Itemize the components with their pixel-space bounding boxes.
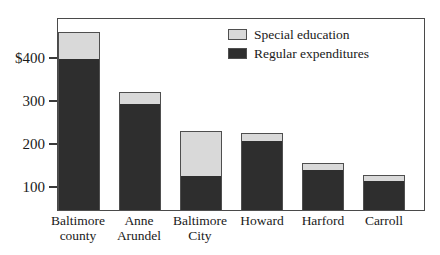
bar-stack[interactable]: [363, 175, 405, 211]
x-label-baltimore-county: Baltimore county: [43, 213, 113, 243]
x-label-howard: Howard: [227, 213, 297, 228]
x-label-line1: Anne: [124, 213, 153, 228]
legend-label: Regular expenditures: [254, 46, 369, 61]
bar-segment-special-education[interactable]: [242, 134, 282, 141]
x-label-harford: Harford: [288, 213, 358, 228]
bar-stack[interactable]: [58, 32, 100, 211]
bar-segment-regular-expenditures[interactable]: [242, 141, 282, 210]
x-label-line1: Baltimore: [51, 213, 105, 228]
legend-swatch-icon: [228, 48, 247, 59]
legend-item-special-education[interactable]: Special education: [228, 26, 408, 43]
y-tick-mark-200: [49, 143, 57, 145]
stacked-bar-chart: $400 300 200 100: [0, 0, 440, 255]
y-tick-mark-400: [49, 57, 57, 59]
y-tick-label-100: 100: [23, 177, 46, 197]
x-label-baltimore-city: Baltimore City: [165, 213, 235, 243]
legend: Special education Regular expenditures: [228, 26, 408, 64]
y-tick-label-300: 300: [23, 91, 46, 111]
bar-segment-regular-expenditures[interactable]: [120, 104, 160, 210]
y-tick-label-400: $400: [15, 48, 45, 68]
x-label-line2: county: [43, 228, 113, 243]
x-label-line2: City: [165, 228, 235, 243]
x-label-line1: Baltimore: [173, 213, 227, 228]
y-tick-mark-100: [49, 186, 57, 188]
x-label-line1: Harford: [302, 213, 345, 228]
y-tick-mark-300: [49, 100, 57, 102]
bar-group-baltimore-city: [180, 18, 222, 211]
bar-segment-regular-expenditures[interactable]: [181, 176, 221, 210]
legend-item-regular-expenditures[interactable]: Regular expenditures: [228, 45, 408, 62]
legend-label: Special education: [254, 27, 350, 42]
x-label-line1: Howard: [240, 213, 284, 228]
bar-segment-regular-expenditures[interactable]: [59, 59, 99, 210]
y-tick-label-200: 200: [23, 134, 46, 154]
bar-group-anne-arundel: [119, 18, 161, 211]
bar-segment-special-education[interactable]: [120, 93, 160, 104]
x-axis-labels: Baltimore county Anne Arundel Baltimore …: [57, 213, 425, 255]
legend-swatch-icon: [228, 29, 247, 40]
bar-stack[interactable]: [180, 131, 222, 211]
x-label-carroll: Carroll: [349, 213, 419, 228]
bar-group-baltimore-county: [58, 18, 100, 211]
bar-stack[interactable]: [241, 133, 283, 211]
bar-stack[interactable]: [302, 163, 344, 211]
bar-stack[interactable]: [119, 92, 161, 211]
x-label-anne-arundel: Anne Arundel: [104, 213, 174, 243]
bar-segment-special-education[interactable]: [181, 132, 221, 176]
bar-segment-special-education[interactable]: [59, 33, 99, 59]
bar-segment-regular-expenditures[interactable]: [364, 181, 404, 210]
bar-segment-regular-expenditures[interactable]: [303, 170, 343, 210]
x-label-line1: Carroll: [365, 213, 403, 228]
x-label-line2: Arundel: [104, 228, 174, 243]
